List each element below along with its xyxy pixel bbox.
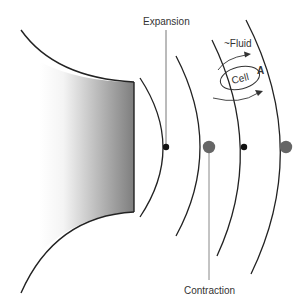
- wavefront-arc-1: [140, 78, 163, 217]
- expansion-particle-dot-2: [241, 144, 247, 150]
- source-top-edge: [21, 30, 134, 82]
- wavefront-arc-4: [246, 20, 280, 274]
- expansion-label: Expansion: [143, 16, 190, 27]
- fluid-flow-arrow-bottom: [213, 93, 258, 101]
- expansion-particle-dot-1: [163, 144, 169, 150]
- fluid-flow-arrowhead-bottom: [255, 90, 263, 96]
- source-fill: [40, 62, 134, 252]
- point-a-label: A: [257, 65, 264, 76]
- contraction-label: Contraction: [184, 285, 235, 296]
- contraction-particle-dot-2: [280, 141, 292, 153]
- contraction-particle-dot-1: [203, 141, 215, 153]
- fluid-flow-arrowhead-top: [244, 52, 251, 58]
- wavefront-arc-2: [176, 56, 200, 236]
- wave-propagation-diagram: Cell Expansion Contraction ~Fluid A: [0, 0, 308, 303]
- cell-label: Cell: [230, 71, 249, 86]
- source-horn: [21, 30, 134, 293]
- fluid-label: ~Fluid: [224, 38, 252, 49]
